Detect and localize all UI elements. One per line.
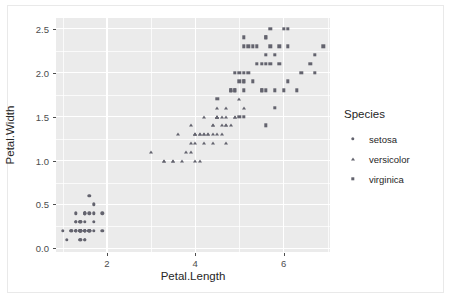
data-point-setosa (79, 220, 82, 223)
x-tick-label: 6 (281, 258, 286, 269)
data-point-virginica (286, 80, 289, 83)
data-point-virginica (242, 115, 245, 118)
grid-line-minor-vertical (328, 18, 329, 252)
data-point-versicolor (237, 97, 241, 100)
data-point-virginica (277, 62, 280, 65)
data-point-virginica (264, 36, 267, 39)
data-point-virginica (242, 36, 245, 39)
data-point-versicolor (202, 115, 206, 118)
y-tick-mark (53, 161, 56, 162)
grid-line-minor-vertical (151, 18, 152, 252)
data-point-versicolor (215, 115, 219, 118)
data-point-virginica (242, 71, 245, 74)
data-point-setosa (70, 229, 73, 232)
y-tick-label: 2.5 (0, 23, 49, 34)
data-point-versicolor (211, 141, 215, 144)
y-tick-mark (53, 248, 56, 249)
data-point-setosa (87, 229, 90, 232)
x-tick-label: 2 (104, 258, 109, 269)
data-point-versicolor (224, 141, 228, 144)
data-point-virginica (264, 53, 267, 56)
data-point-setosa (65, 238, 68, 241)
data-point-virginica (273, 53, 276, 56)
data-point-setosa (74, 220, 77, 223)
data-point-virginica (247, 44, 250, 47)
data-point-setosa (83, 212, 86, 215)
data-point-versicolor (184, 150, 188, 153)
data-point-virginica (264, 88, 267, 91)
data-point-versicolor (189, 141, 193, 144)
data-point-virginica (238, 80, 241, 83)
data-point-virginica (229, 88, 232, 91)
x-tick-label: 4 (193, 258, 198, 269)
data-point-setosa (101, 229, 104, 232)
data-point-versicolor (193, 133, 197, 136)
data-point-virginica (233, 88, 236, 91)
data-point-virginica (295, 88, 298, 91)
legend-item-virginica[interactable]: virginica (344, 169, 439, 189)
data-point-versicolor (215, 106, 219, 109)
legend-item-label: virginica (369, 174, 404, 185)
x-tick-mark (284, 253, 285, 256)
data-point-virginica (273, 88, 276, 91)
legend-item-versicolor[interactable]: versicolor (344, 149, 439, 169)
data-point-setosa (74, 229, 77, 232)
grid-line-major-horizontal (56, 204, 330, 205)
data-point-versicolor (180, 159, 184, 162)
data-point-versicolor (193, 159, 197, 162)
data-point-virginica (322, 44, 325, 47)
y-tick-label: 0.5 (0, 199, 49, 210)
data-point-versicolor (242, 106, 246, 109)
data-point-virginica (216, 97, 219, 100)
x-tick-mark (107, 253, 108, 256)
circle-marker-icon (351, 137, 354, 140)
data-point-virginica (273, 106, 276, 109)
legend-item-label: setosa (369, 134, 397, 145)
legend-item-setosa[interactable]: setosa (344, 129, 439, 149)
data-point-setosa (92, 229, 95, 232)
data-point-versicolor (233, 115, 237, 118)
data-point-versicolor (189, 124, 193, 127)
data-point-virginica (255, 44, 258, 47)
x-tick-mark (195, 253, 196, 256)
data-point-versicolor (198, 159, 202, 162)
data-point-virginica (242, 88, 245, 91)
data-point-versicolor (189, 150, 193, 153)
data-point-virginica (233, 71, 236, 74)
grid-line-minor-horizontal (56, 51, 330, 52)
data-point-setosa (74, 212, 77, 215)
data-point-versicolor (202, 141, 206, 144)
legend-key-circle-icon (344, 131, 361, 148)
chart-figure: 0.00.51.01.52.02.5 246 Petal.Width Petal… (0, 0, 451, 304)
legend: Species setosaversicolorvirginica (344, 108, 439, 189)
data-point-setosa (79, 238, 82, 241)
data-point-versicolor (162, 159, 166, 162)
data-point-versicolor (229, 124, 233, 127)
triangle-marker-icon (351, 158, 355, 161)
data-point-virginica (286, 27, 289, 30)
y-tick-mark (53, 29, 56, 30)
data-point-versicolor (211, 124, 215, 127)
data-point-virginica (269, 62, 272, 65)
y-tick-mark (53, 117, 56, 118)
y-tick-mark (53, 73, 56, 74)
legend-item-label: versicolor (369, 154, 410, 165)
data-point-virginica (255, 62, 258, 65)
data-point-setosa (92, 203, 95, 206)
data-point-setosa (83, 238, 86, 241)
data-point-versicolor (176, 133, 180, 136)
data-point-virginica (282, 27, 285, 30)
grid-line-major-vertical (106, 18, 107, 252)
data-point-virginica (264, 124, 267, 127)
legend-key-square-icon (344, 171, 361, 188)
data-point-versicolor (215, 133, 219, 136)
data-point-virginica (238, 71, 241, 74)
grid-line-minor-horizontal (56, 139, 330, 140)
data-point-versicolor (206, 133, 210, 136)
data-point-setosa (87, 194, 90, 197)
y-axis-title: Petal.Width (4, 106, 16, 165)
y-tick-label: 2.0 (0, 67, 49, 78)
data-point-versicolor (220, 124, 224, 127)
data-point-virginica (238, 115, 241, 118)
data-point-virginica (277, 44, 280, 47)
